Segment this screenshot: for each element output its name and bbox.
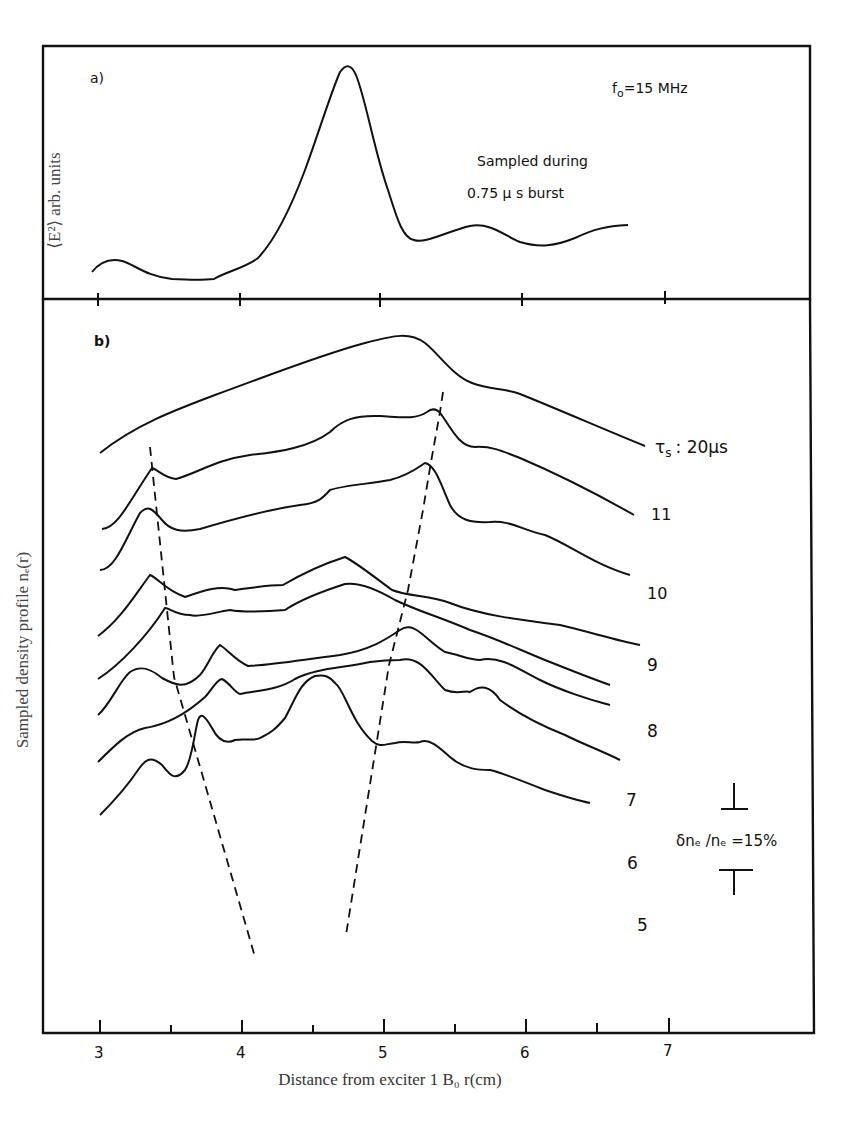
x-tick-label-7: 7 (663, 1042, 673, 1060)
curve-label-8: 8 (647, 721, 658, 741)
panel-a-curve (92, 66, 628, 279)
y-axis-label-a: ⟨E²⟩ arb. units (44, 101, 65, 301)
curve-10 (100, 463, 630, 575)
x-tick-label-4: 4 (236, 1044, 246, 1062)
tau-label: τs: 20μs (655, 437, 728, 460)
x-tick-label-5: 5 (378, 1044, 388, 1062)
y-axis-label-b: Sampled density profile nₑ(r) (13, 505, 33, 795)
panel-a-label: a) (90, 70, 104, 86)
curve-label-7: 7 (626, 790, 637, 810)
f0-value: =15 MHz (624, 80, 688, 96)
x-tick-label-6: 6 (520, 1044, 530, 1062)
curve-label-6: 6 (627, 853, 638, 873)
curve-tau-20 (100, 336, 645, 453)
curve-7 (98, 627, 610, 715)
panel-b-label: b) (94, 333, 110, 349)
panel-a-frame (43, 46, 810, 299)
figure (0, 0, 852, 1126)
curve-5 (100, 675, 590, 815)
tau-value: : 20μs (676, 437, 728, 457)
panel-b-frame (43, 299, 814, 1033)
curve-9 (98, 557, 640, 645)
x-axis-ticks (100, 1018, 669, 1033)
curve-11 (102, 410, 634, 529)
scale-bar-label: δnₑ /nₑ =15% (676, 832, 777, 850)
x-tick-label-3: 3 (94, 1044, 104, 1062)
curve-label-9: 9 (647, 655, 658, 675)
curve-8 (98, 584, 610, 685)
curve-label-11: 11 (651, 505, 671, 524)
x-axis-label: Distance from exciter 1 B₀ r(cm) (180, 1070, 600, 1090)
tau-symbol: τ (655, 437, 665, 457)
curve-6 (98, 659, 620, 762)
f0-subscript: o (617, 87, 624, 100)
curve-label-10: 10 (647, 584, 667, 603)
sampled-annotation-line1: Sampled during (477, 153, 588, 169)
density-curves (98, 336, 645, 815)
curve-label-5: 5 (637, 915, 648, 935)
sampled-annotation-line2: 0.75 μ s burst (467, 185, 564, 201)
tau-subscript: s (665, 446, 671, 460)
frequency-annotation: fo=15 MHz (612, 80, 688, 100)
